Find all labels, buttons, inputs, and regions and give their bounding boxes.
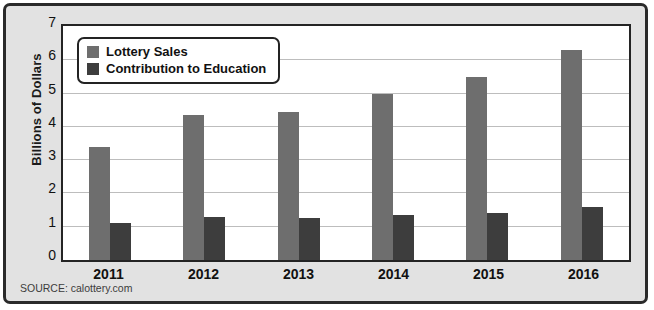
legend-swatch-icon: [87, 63, 99, 75]
y-axis-tick-4: 4: [34, 115, 56, 129]
bar-2012-contribution-to-education: [204, 217, 225, 260]
bar-2013-contribution-to-education: [299, 218, 320, 260]
x-axis-tick-2012: 2012: [156, 264, 251, 286]
chart-legend: Lottery SalesContribution to Education: [77, 37, 280, 84]
legend-label-1: Lottery Sales: [106, 44, 188, 59]
x-axis-tick-2014: 2014: [346, 264, 441, 286]
bar-2015-contribution-to-education: [487, 213, 508, 260]
chart-figure: Billions of Dollars 01234567 20112012201…: [3, 3, 648, 304]
bar-2016-lottery-sales: [561, 50, 582, 260]
legend-swatch-icon: [87, 46, 99, 58]
y-axis-tick-labels: 01234567: [34, 18, 56, 262]
y-axis-tick-1: 1: [34, 215, 56, 229]
x-axis-tick-2013: 2013: [251, 264, 346, 286]
bar-group-2014: [346, 26, 440, 260]
bar-2011-lottery-sales: [89, 147, 110, 260]
bar-2016-contribution-to-education: [582, 207, 603, 260]
bar-2014-lottery-sales: [372, 94, 393, 260]
y-axis-tick-5: 5: [34, 82, 56, 96]
bar-group-2015: [440, 26, 534, 260]
y-axis-tick-6: 6: [34, 48, 56, 62]
y-axis-tick-0: 0: [34, 248, 56, 262]
bar-2011-contribution-to-education: [110, 223, 131, 260]
bar-2014-contribution-to-education: [393, 215, 414, 260]
y-axis-tick-2: 2: [34, 181, 56, 195]
legend-label-2: Contribution to Education: [106, 61, 266, 76]
bar-2012-lottery-sales: [183, 115, 204, 260]
legend-item-2: Contribution to Education: [87, 60, 266, 77]
x-axis-tick-labels: 201120122013201420152016: [61, 264, 631, 286]
bar-2013-lottery-sales: [278, 112, 299, 260]
bar-group-2016: [535, 26, 629, 260]
x-axis-tick-2016: 2016: [536, 264, 631, 286]
bar-2015-lottery-sales: [466, 77, 487, 260]
y-axis-tick-7: 7: [34, 15, 56, 29]
legend-item-1: Lottery Sales: [87, 43, 266, 60]
source-note: SOURCE: calottery.com: [20, 282, 132, 294]
x-axis-tick-2015: 2015: [441, 264, 536, 286]
y-axis-tick-3: 3: [34, 148, 56, 162]
